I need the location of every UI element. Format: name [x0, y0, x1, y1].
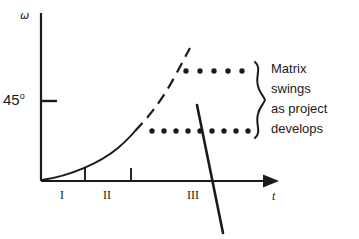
steep-decline-line: [197, 105, 223, 233]
annotation-line-4: develops: [271, 119, 327, 139]
figure-caption-clipped: [70, 231, 310, 239]
annotation-curly-brace-icon: [255, 62, 265, 138]
lower-dotted-level: [149, 128, 250, 133]
annotation-line-3: as project: [271, 99, 327, 119]
annotation-line-1: Matrix: [271, 59, 327, 79]
x-axis-arrowhead-icon: [263, 175, 279, 188]
growth-curve-solid: [42, 131, 135, 180]
x-axis-phase-label-2: II: [103, 189, 111, 201]
x-axis-phase-label-1: I: [60, 189, 64, 201]
x-axis-label: t: [272, 190, 275, 202]
annotation-line-2: swings: [271, 79, 327, 99]
growth-curve-dashed: [135, 48, 190, 131]
degree-symbol: o: [20, 91, 25, 101]
matrix-swing-diagram: ω 45o t I II III Matrix swings as projec…: [0, 0, 359, 239]
y-axis-tick-label-45: 45o: [3, 92, 25, 107]
y-tick-value: 45: [3, 91, 20, 108]
x-axis-phase-label-3: III: [187, 189, 199, 201]
annotation-text-block: Matrix swings as project develops: [271, 59, 327, 139]
y-axis-label: ω: [20, 10, 29, 21]
upper-dotted-level: [183, 68, 244, 73]
